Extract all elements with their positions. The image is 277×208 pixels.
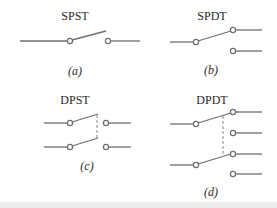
contact-terminal-lower [230,48,235,53]
pivot-terminal [67,38,72,43]
switch-blade [198,31,231,41]
contact-terminal-1 [230,109,235,114]
switch-blade [72,31,106,40]
panel-caption-d: (d) [204,185,218,199]
pivot-terminal-upper [67,120,72,125]
panel-caption-a: (a) [68,64,82,78]
panel-title-dpdt: DPDT [196,93,228,107]
switch-blade-lower [72,138,98,146]
panel-dpdt: DPDT (d) [170,93,262,199]
contact-terminal [105,38,110,43]
contact-terminal-4 [230,171,235,176]
pivot-terminal [193,39,198,44]
panel-caption-c: (c) [80,159,93,173]
pivot-terminal-lower [67,144,72,149]
panel-title-dpst: DPST [60,93,90,107]
panel-dpst: DPST (c) [44,93,131,173]
panel-caption-b: (b) [204,63,218,77]
switch-types-diagram: SPST (a) SPDT (b) DPST [0,0,277,208]
panel-spst: SPST (a) [20,9,140,78]
contact-terminal-upper [103,120,108,125]
panel-spdt: SPDT (b) [170,9,262,77]
contact-terminal-lower [103,144,108,149]
pivot-terminal-upper [193,121,198,126]
contact-terminal-3 [230,151,235,156]
panel-title-spst: SPST [61,9,89,23]
switch-blade-upper [198,113,231,123]
contact-terminal-upper [230,27,235,32]
contact-terminal-2 [230,130,235,135]
switch-blade-lower [198,154,231,164]
bottom-edge-band [0,202,277,208]
switch-blade-upper [72,114,98,122]
panel-title-spdt: SPDT [197,9,227,23]
pivot-terminal-lower [193,162,198,167]
